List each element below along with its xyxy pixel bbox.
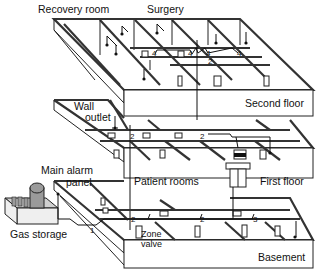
marker-2a: 2	[130, 132, 135, 141]
marker-4b: 4	[188, 49, 193, 58]
first-floor-front-face	[124, 148, 313, 178]
label-zone-valve-line2: valve	[141, 239, 162, 249]
label-basement: Basement	[258, 251, 305, 263]
marker-2-second: 2	[208, 57, 213, 66]
label-recovery-room: Recovery room	[38, 3, 109, 15]
label-second-floor: Second floor	[245, 97, 304, 109]
marker-3: 3	[253, 215, 258, 224]
label-wall-outlet-line2: outlet	[85, 111, 111, 123]
marker-2c: 2	[131, 215, 136, 224]
marker-4d: 4	[237, 49, 242, 58]
label-main-alarm-line2: panel	[66, 176, 92, 188]
gas-distribution-diagram: 4 4 4 4 2 Recovery room Surgery Second f…	[0, 0, 316, 278]
label-patient-rooms: Patient rooms	[134, 175, 199, 187]
gas-storage-tank-area	[5, 183, 60, 224]
label-main-alarm-line1: Main alarm	[41, 164, 93, 176]
marker-2d: 2	[200, 215, 205, 224]
label-zone-valve-line1: Zone	[141, 229, 162, 239]
label-surgery: Surgery	[147, 3, 185, 15]
marker-2b: 2	[200, 132, 205, 141]
label-gas-storage: Gas storage	[10, 228, 67, 240]
label-first-floor: First floor	[260, 175, 304, 187]
marker-1: 1	[90, 226, 95, 235]
marker-4a: 4	[152, 49, 157, 58]
